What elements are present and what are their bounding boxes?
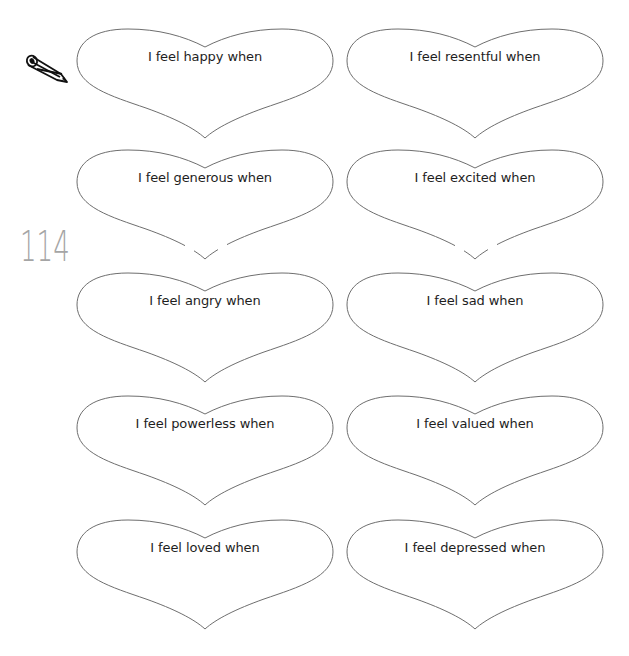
heart-label: I feel excited when [346, 170, 604, 185]
pencil-icon [24, 50, 72, 84]
heart-card-resentful: I feel resentful when [346, 28, 604, 140]
heart-label: I feel loved when [76, 540, 334, 555]
heart-label: I feel sad when [346, 293, 604, 308]
heart-card-generous: I feel generous when [76, 149, 334, 261]
heart-label: I feel resentful when [346, 49, 604, 64]
heart-card-excited: I feel excited when [346, 149, 604, 261]
heart-label: I feel powerless when [76, 416, 334, 431]
heart-card-depressed: I feel depressed when [346, 519, 604, 631]
heart-label: I feel depressed when [346, 540, 604, 555]
heart-label: I feel happy when [76, 49, 334, 64]
heart-card-sad: I feel sad when [346, 272, 604, 384]
heart-card-valued: I feel valued when [346, 395, 604, 507]
heart-card-happy: I feel happy when [76, 28, 334, 140]
heart-card-powerless: I feel powerless when [76, 395, 334, 507]
page-number: 114 [20, 226, 70, 268]
heart-card-angry: I feel angry when [76, 272, 334, 384]
heart-card-loved: I feel loved when [76, 519, 334, 631]
heart-label: I feel valued when [346, 416, 604, 431]
heart-label: I feel angry when [76, 293, 334, 308]
heart-label: I feel generous when [76, 170, 334, 185]
